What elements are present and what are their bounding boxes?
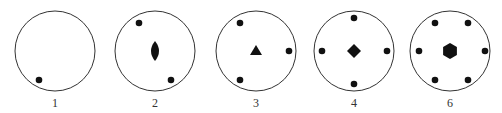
diagram-label-6: 6 [440,96,460,111]
lens-icon [151,41,159,61]
dot-icon [351,81,358,88]
diagram-label-1: 1 [45,96,65,111]
diagram-label-2: 2 [145,96,165,111]
dot-icon [351,15,358,22]
dot-icon [465,20,472,27]
dot-icon [416,48,423,55]
hexagon-icon [443,43,457,59]
dot-icon [432,20,439,27]
dot-icon [168,77,175,84]
dot-icon [482,48,489,55]
diamond-icon [347,44,361,58]
dot-icon [237,20,244,27]
triangle-icon [250,45,262,55]
dot-icon [384,48,391,55]
dot-icon [237,77,244,84]
dot-icon [136,20,143,27]
diagram-label-4: 4 [344,96,364,111]
dot-icon [286,48,293,55]
outer-circle-1 [15,11,95,91]
dot-icon [36,77,43,84]
dot-icon [432,77,439,84]
dot-icon [319,48,326,55]
diagram-label-3: 3 [246,96,266,111]
dot-icon [465,77,472,84]
